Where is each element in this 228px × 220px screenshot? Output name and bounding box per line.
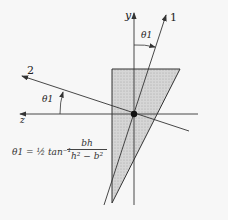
diagram-graphic: [0, 0, 228, 220]
formula-fraction: bh h² − b²: [67, 138, 107, 161]
triangle-section: [112, 69, 180, 203]
axis-2-label: 2: [27, 65, 34, 76]
z-axis-label: z: [20, 116, 25, 125]
diagram-canvas: y 1 2 z θ1 θ1 θ1 = ½ tan⁻¹ bh h² − b²: [0, 0, 228, 220]
axis-1-label: 1: [170, 12, 177, 23]
angle-arc-upper: [134, 45, 155, 47]
theta-formula: θ1 = ½ tan⁻¹ bh h² − b²: [12, 147, 71, 157]
centroid-dot: [131, 111, 137, 117]
formula-numerator: bh: [67, 138, 107, 150]
angle-label-left: θ1: [42, 95, 53, 104]
angle-arc-left: [60, 92, 63, 114]
formula-denominator: h² − b²: [67, 150, 107, 161]
formula-lhs: θ1 = ½ tan⁻¹: [12, 147, 71, 157]
y-axis-label: y: [125, 10, 131, 21]
angle-label-upper: θ1: [141, 31, 152, 40]
